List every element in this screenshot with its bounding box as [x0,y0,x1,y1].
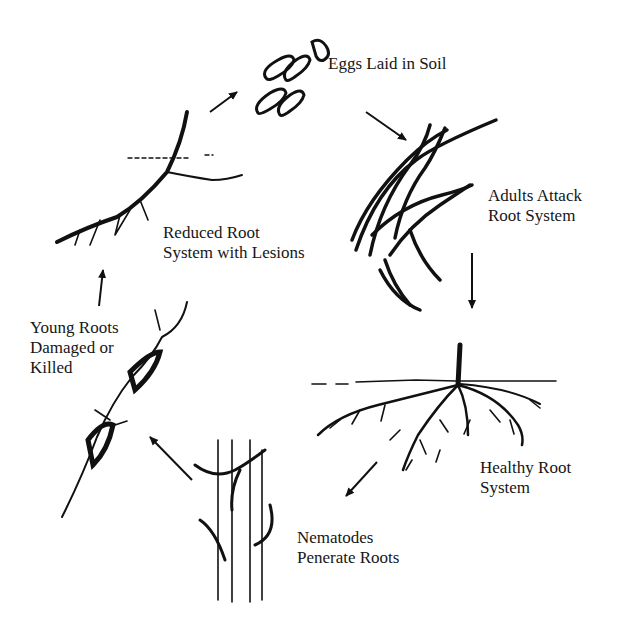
arrow-young-to-reduced [99,270,103,306]
adult-nematodes-illustration [352,120,496,310]
eggs-illustration [257,40,329,115]
arrow-eggs-to-adults [366,112,406,140]
label-adults-attack: Adults Attack Root System [488,186,582,226]
label-young-roots-damaged: Young Roots Damaged or Killed [30,318,119,378]
label-eggs-laid-in-soil: Eggs Laid in Soil [328,54,447,74]
label-reduced-root-system: Reduced Root System with Lesions [163,223,305,263]
penetrating-roots-illustration [195,440,272,602]
arrow-reduced-to-eggs [210,92,237,112]
label-healthy-root-system: Healthy Root System [480,458,571,498]
arrow-penetrate-to-young [150,437,192,480]
label-nematodes-penetrate: Nematodes Penerate Roots [297,528,399,568]
healthy-root-illustration [312,345,556,470]
arrow-healthy-to-penetrate [346,462,377,496]
